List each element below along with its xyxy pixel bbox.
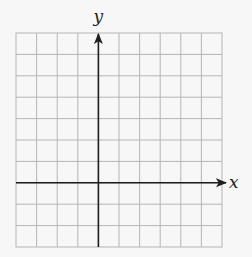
- coordinate-plane: x y: [0, 0, 252, 257]
- y-axis-label: y: [93, 6, 104, 26]
- x-axis-label: x: [229, 172, 239, 192]
- coordinate-plane-figure: x y: [0, 0, 252, 257]
- grid-lines: [16, 33, 222, 247]
